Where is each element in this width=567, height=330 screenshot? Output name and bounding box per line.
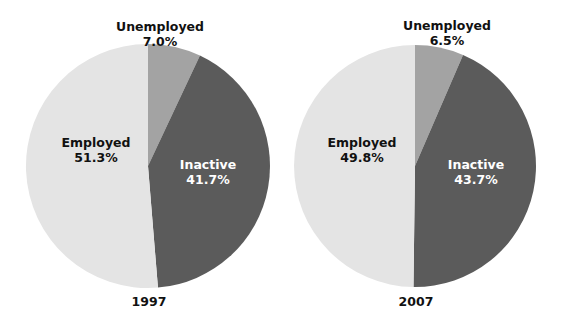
slice-employed-2007 [294, 45, 415, 287]
label-inactive-2007-name: Inactive [448, 157, 504, 172]
label-inactive-1997-name: Inactive [180, 157, 236, 172]
label-employed-1997-name: Employed [62, 135, 131, 150]
label-employed-2007-name: Employed [328, 135, 397, 150]
pie-charts: Unemployed 7.0% Employed 51.3% Inactive … [0, 0, 567, 330]
label-unemployed-2007-name: Unemployed [403, 18, 491, 33]
label-inactive-1997-pct: 41.7% [186, 172, 230, 187]
pie-title-2007: 2007 [399, 294, 434, 309]
label-unemployed-1997-name: Unemployed [116, 19, 204, 34]
label-employed-2007-pct: 49.8% [340, 150, 384, 165]
label-inactive-2007-pct: 43.7% [454, 172, 498, 187]
label-employed-1997-pct: 51.3% [74, 150, 118, 165]
label-unemployed-2007-pct: 6.5% [430, 33, 465, 48]
slice-employed-1997 [26, 44, 158, 288]
label-unemployed-1997-pct: 7.0% [143, 34, 178, 49]
pie-title-1997: 1997 [132, 294, 167, 309]
